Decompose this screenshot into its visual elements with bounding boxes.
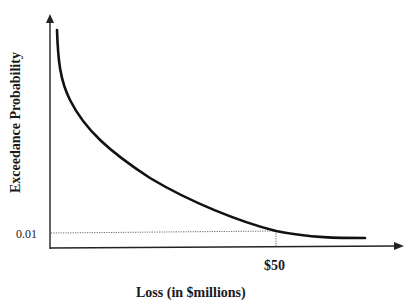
x-axis [50,246,396,248]
y-tick-label: 0.01 [16,227,37,241]
y-axis-label: Exceedance Probability [8,52,23,193]
y-axis-arrow-icon [46,14,54,23]
x-axis-label: Loss (in $millions) [136,285,246,300]
probability-reference-line [51,231,276,233]
exceedance-curve [57,30,365,238]
exceedance-chart: 0.01 $50 Loss (in $millions) Exceedance … [0,0,406,300]
x-tick-label: $50 [264,258,285,273]
x-axis-arrow-icon [394,242,404,250]
